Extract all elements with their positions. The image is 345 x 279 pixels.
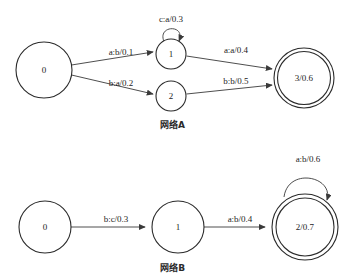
caption-network-b: 网络B xyxy=(0,261,345,274)
state-node-1-b[interactable]: 1 xyxy=(152,201,204,253)
figure-network-b: 0 1 2/0.7 b:c/0.3 a:b/0.4 a:b/0.6 xyxy=(0,148,345,279)
state-label-1-a: 1 xyxy=(169,49,174,59)
state-node-0-b[interactable]: 0 xyxy=(19,201,71,253)
state-label-1-b: 1 xyxy=(176,222,181,232)
state-node-2-a[interactable]: 2 xyxy=(156,81,186,111)
state-label-3-a: 3/0.6 xyxy=(295,73,314,83)
state-label-0-b: 0 xyxy=(43,222,48,232)
clipped-header-fragment xyxy=(4,0,244,2)
edge-label-0-1-b: b:c/0.3 xyxy=(104,214,129,224)
edge-label-1-2-b: a:b/0.4 xyxy=(228,214,253,224)
state-node-1-a[interactable]: 1 xyxy=(156,39,186,69)
state-node-2-b[interactable]: 2/0.7 xyxy=(272,194,338,260)
state-node-3-a[interactable]: 3/0.6 xyxy=(274,48,334,108)
edge-label-0-2-a: b:a/0.2 xyxy=(109,78,134,88)
edge-label-0-1-a: a:b/0.1 xyxy=(109,47,134,57)
state-label-2-a: 2 xyxy=(169,91,174,101)
edge-label-self-loop-2-b: a:b/0.6 xyxy=(296,154,321,164)
state-node-0-a[interactable]: 0 xyxy=(16,42,72,98)
edge-label-2-3-a: b:b/0.5 xyxy=(223,76,249,86)
caption-network-a: 网络A xyxy=(0,118,345,131)
edge-label-self-loop-1-a: c:a/0.3 xyxy=(159,14,184,24)
fsm-diagram-a: 0 1 2 3/0.6 a:b/0.1 b:a/0.2 a:a/0.4 b:b/… xyxy=(0,8,345,120)
edge-1-to-3[interactable] xyxy=(187,56,273,69)
edge-label-1-3-a: a:a/0.4 xyxy=(224,45,249,55)
page-root: 0 1 2 3/0.6 a:b/0.1 b:a/0.2 a:a/0.4 b:b/… xyxy=(0,0,345,279)
edge-2-to-3[interactable] xyxy=(187,85,273,94)
fsm-diagram-b: 0 1 2/0.7 b:c/0.3 a:b/0.4 a:b/0.6 xyxy=(0,148,345,263)
state-label-0-a: 0 xyxy=(42,65,47,75)
state-label-2-b: 2/0.7 xyxy=(296,222,315,232)
